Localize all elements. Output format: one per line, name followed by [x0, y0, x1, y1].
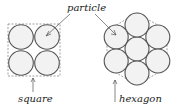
packing-diagram: particle square hexagon: [0, 0, 177, 110]
particle: [125, 61, 149, 85]
particle: [125, 37, 149, 61]
particle: [9, 25, 34, 50]
particle: [146, 25, 170, 49]
particle: [146, 49, 170, 73]
particle: [125, 13, 149, 37]
square-packing: [8, 24, 60, 76]
hexagon-label: hexagon: [119, 93, 162, 104]
square-arrow: [31, 78, 35, 92]
particle: [104, 25, 128, 49]
particle: [104, 49, 128, 73]
particle: [35, 25, 60, 50]
square-label: square: [18, 93, 53, 104]
particle: [9, 51, 34, 76]
hexagon-arrow: [113, 80, 117, 102]
particle-label: particle: [67, 2, 106, 13]
particle: [35, 51, 60, 76]
hexagon-packing: [104, 13, 170, 85]
